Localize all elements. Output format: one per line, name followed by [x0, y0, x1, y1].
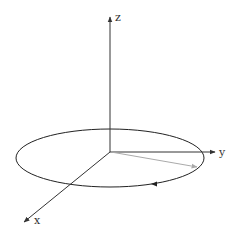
- orbit-direction-arrow-icon: [151, 182, 157, 187]
- position-vector: [111, 152, 197, 167]
- coordinate-diagram: z y x: [0, 0, 237, 239]
- z-axis-label: z: [115, 11, 121, 24]
- x-axis-label: x: [34, 214, 41, 227]
- y-axis-label: y: [218, 146, 226, 159]
